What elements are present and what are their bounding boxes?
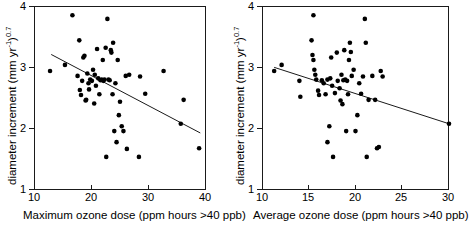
- y-axis-title-left-pre: diameter increment (mm yr: [6, 48, 18, 185]
- x-tick-label-20-left: 20: [76, 192, 106, 203]
- data-point: [112, 129, 117, 134]
- data-point: [339, 72, 344, 77]
- data-point: [279, 63, 284, 68]
- x-axis-title-left: Maximum ozone dose (ppm hours >40 ppb): [23, 209, 246, 222]
- x-tick-15-right: [308, 185, 309, 190]
- data-point: [377, 145, 382, 150]
- data-point: [48, 69, 53, 74]
- data-point: [346, 92, 351, 97]
- data-point: [85, 71, 90, 76]
- data-point: [327, 124, 332, 129]
- data-point: [363, 41, 368, 46]
- y-tick-3-left: [29, 67, 34, 68]
- y-axis-title-right-mid: ): [234, 37, 246, 41]
- data-point: [105, 17, 110, 22]
- data-point: [82, 53, 87, 58]
- data-point: [335, 50, 340, 55]
- data-point: [113, 81, 118, 86]
- data-point: [317, 93, 322, 98]
- x-tick-label-40-left: 40: [190, 192, 220, 203]
- data-point: [349, 50, 354, 55]
- data-point: [97, 92, 102, 97]
- x-tick-label-25-right: 25: [386, 192, 416, 203]
- data-point: [297, 79, 302, 84]
- y-tick-4-left: [29, 6, 34, 7]
- y-axis-title-left-mid: ): [6, 37, 18, 41]
- data-point: [314, 77, 319, 82]
- data-point: [345, 79, 350, 84]
- data-point: [87, 87, 92, 92]
- data-point: [197, 146, 202, 151]
- data-point: [111, 41, 116, 46]
- y-tick-2-right: [257, 128, 262, 129]
- x-tick-25-right: [401, 185, 402, 190]
- data-point: [102, 77, 107, 82]
- data-point: [321, 81, 326, 86]
- data-point: [351, 67, 356, 72]
- data-point: [84, 98, 89, 103]
- x-tick-10-left: [34, 185, 35, 190]
- data-point: [357, 81, 362, 86]
- data-point: [312, 67, 317, 72]
- data-point: [161, 69, 166, 74]
- data-point: [103, 45, 108, 50]
- y-tick-3-right: [257, 67, 262, 68]
- data-point: [77, 38, 82, 43]
- data-point: [119, 124, 124, 129]
- data-point: [311, 58, 316, 63]
- data-point: [380, 74, 385, 79]
- data-point: [373, 98, 378, 103]
- data-point: [349, 74, 354, 79]
- y-axis-title-left: diameter increment (mm yr-1)0.7: [2, 27, 19, 185]
- data-point: [316, 88, 321, 93]
- data-point: [272, 69, 277, 74]
- data-point: [330, 83, 335, 88]
- y-axis-title-right-sup1: -1: [232, 41, 241, 48]
- data-point: [340, 102, 345, 107]
- x-tick-30-left: [148, 185, 149, 190]
- y-tick-4-right: [257, 6, 262, 7]
- y-tick-label-4-right: 4: [238, 1, 254, 12]
- y-axis-title-right: diameter increment (mm yr-1)0.7: [230, 27, 247, 185]
- data-point: [104, 155, 109, 160]
- chart-panel-average-ozone-dose: 4 3 2 1 10 15 20 25 30 Average ozone dos…: [229, 0, 458, 231]
- data-point: [323, 92, 328, 97]
- data-point: [178, 121, 183, 126]
- data-point: [359, 91, 364, 96]
- data-point: [313, 72, 318, 77]
- x-tick-10-right: [262, 185, 263, 190]
- data-point: [325, 140, 330, 145]
- data-point: [347, 58, 352, 63]
- data-point: [94, 83, 99, 88]
- chart-panel-maximum-ozone-dose: 4 3 2 1 10 20 30 40 Maximum ozone dose (…: [0, 0, 229, 231]
- data-point: [181, 98, 186, 103]
- data-point: [329, 55, 334, 60]
- x-tick-label-10-right: 10: [247, 192, 277, 203]
- data-point: [70, 13, 75, 18]
- data-point: [333, 91, 338, 96]
- data-point: [109, 50, 114, 55]
- data-point: [117, 113, 122, 118]
- data-point: [137, 155, 142, 160]
- data-point: [370, 74, 375, 79]
- y-tick-2-left: [29, 128, 34, 129]
- data-point: [101, 58, 106, 63]
- x-tick-40-left: [205, 185, 206, 190]
- data-point: [138, 74, 143, 79]
- x-tick-label-10-left: 10: [19, 192, 49, 203]
- data-point: [115, 58, 120, 63]
- data-point: [79, 93, 84, 98]
- data-point: [95, 47, 100, 52]
- x-tick-30-right: [448, 185, 449, 190]
- data-point: [110, 92, 115, 97]
- data-point: [118, 99, 123, 104]
- data-point: [80, 79, 85, 84]
- x-tick-label-20-right: 20: [340, 192, 370, 203]
- y-axis-title-left-sup1: -1: [4, 41, 13, 48]
- data-point: [90, 79, 95, 84]
- data-point: [311, 13, 316, 18]
- data-point: [335, 79, 340, 84]
- data-point: [91, 67, 96, 72]
- data-point: [92, 72, 97, 77]
